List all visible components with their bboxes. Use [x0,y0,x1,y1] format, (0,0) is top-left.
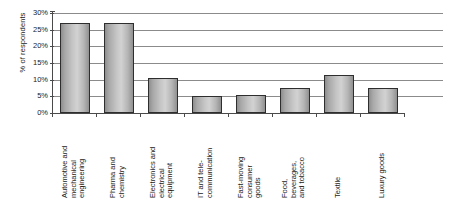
plot-area [53,13,443,113]
x-axis-category-label: Food,beverages,and tobacco [281,157,307,198]
x-axis-category-label: Electronics andelectricalequipment [149,147,175,198]
x-axis-category-label: Automotive andmechanicalengineering [61,146,87,198]
y-axis-tick [50,80,54,81]
x-axis-tick [96,113,97,117]
x-axis-tick [360,113,361,117]
y-axis-tick-label: 30% [20,9,48,17]
x-axis-category-label-line: communication [206,148,215,198]
x-axis-tick [404,113,405,117]
x-axis-category-label: IT and tele-communication [197,148,214,198]
x-axis-tick [52,113,53,117]
y-axis-tick-label: 25% [20,26,48,34]
x-axis-category-label-line: goods [254,157,263,198]
bar [60,23,90,113]
bar [368,88,398,113]
y-axis-tick [50,30,54,31]
x-axis-tick [228,113,229,117]
x-axis-tick [272,113,273,117]
x-axis-tick [140,113,141,117]
y-axis-tick [50,63,54,64]
x-axis-category-label: Pharma andchemistry [109,157,126,198]
x-axis-tick [184,113,185,117]
y-axis-tick-label: 15% [20,59,48,67]
bar [148,78,178,113]
gridline [53,13,443,14]
x-axis-category-label: Fast-movingconsumergoods [237,157,263,198]
y-axis-tick-labels: 30%25%20%15%10%5%0% [20,0,48,201]
y-axis-tick-label: 20% [20,42,48,50]
y-axis-tick-label: 0% [20,109,48,117]
x-axis-category-label-line: Textile [334,177,343,198]
y-axis-tick [50,46,54,47]
x-axis-category-label-line: equipment [166,147,175,198]
x-axis-category-label: Luxury goods [378,153,387,198]
x-axis-category-label-line: chemistry [118,157,127,198]
x-axis-category-label: Textile [334,177,343,198]
bar-chart: % of respondents 30%25%20%15%10%5%0% Aut… [0,0,461,201]
bar [324,75,354,113]
y-axis-tick [50,96,54,97]
bar [236,95,266,113]
x-axis-category-label-line: Luxury goods [378,153,387,198]
x-axis-category-label-line: and tobacco [298,157,307,198]
y-axis-tick [50,13,54,14]
x-axis-category-label-line: engineering [78,146,87,198]
bar [280,88,310,113]
x-axis-tick [316,113,317,117]
bar [192,96,222,113]
bar [104,23,134,113]
y-axis-tick-label: 10% [20,76,48,84]
y-axis-tick-label: 5% [20,92,48,100]
